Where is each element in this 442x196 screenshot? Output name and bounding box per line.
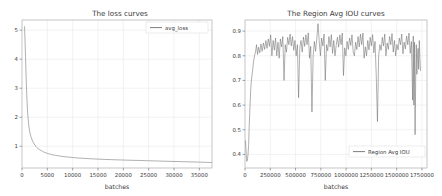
loss-x-axis-label: batches [105, 183, 130, 190]
y-tick-label: 0.5 [232, 127, 241, 133]
x-tick-label: 1500000 [385, 172, 410, 178]
y-tick-label: 0.8 [232, 53, 241, 59]
x-tick-label: 15000 [89, 172, 107, 178]
region-avg-iou-panel: The Region Avg IOU curves 02500005000007… [221, 0, 442, 196]
x-tick-label: 5000 [40, 172, 54, 178]
x-tick-label: 750000 [311, 172, 332, 178]
y-tick-label: 1 [15, 143, 18, 149]
iou-legend: Region Avg IOU [349, 146, 425, 157]
x-tick-label: 10000 [64, 172, 82, 178]
figure-canvas: The loss curves 050001000015000200002500… [0, 0, 442, 196]
y-tick-label: 0.4 [232, 151, 241, 157]
x-tick-label: 0 [20, 172, 24, 178]
loss-legend-label: avg_loss [165, 25, 188, 32]
x-tick-label: 1750000 [410, 172, 435, 178]
loss-chart-title: The loss curves [91, 9, 148, 18]
x-tick-label: 35000 [191, 172, 209, 178]
x-tick-label: 250000 [260, 172, 281, 178]
iou-panel-background [221, 0, 442, 196]
y-tick-label: 2 [15, 114, 18, 120]
x-tick-label: 1250000 [359, 172, 384, 178]
y-tick-label: 0.6 [232, 102, 241, 108]
loss-curves-svg: The loss curves 050001000015000200002500… [0, 0, 221, 196]
x-tick-label: 500000 [285, 172, 306, 178]
x-tick-label: 30000 [165, 172, 183, 178]
y-tick-label: 4 [15, 56, 19, 62]
region-avg-iou-svg: The Region Avg IOU curves 02500005000007… [221, 0, 442, 196]
iou-x-axis-label: batches [324, 183, 349, 190]
x-tick-label: 25000 [140, 172, 158, 178]
y-tick-label: 3 [15, 85, 18, 91]
y-tick-label: 5 [15, 27, 18, 33]
x-tick-label: 20000 [115, 172, 133, 178]
loss-legend: avg_loss [146, 22, 208, 33]
x-tick-label: 1000000 [334, 172, 359, 178]
y-tick-label: 0.9 [232, 28, 241, 34]
iou-chart-title: The Region Avg IOU curves [286, 9, 385, 18]
iou-legend-label: Region Avg IOU [368, 149, 410, 156]
x-tick-label: 0 [243, 172, 247, 178]
y-tick-label: 0.7 [232, 77, 241, 83]
loss-curves-panel: The loss curves 050001000015000200002500… [0, 0, 221, 196]
